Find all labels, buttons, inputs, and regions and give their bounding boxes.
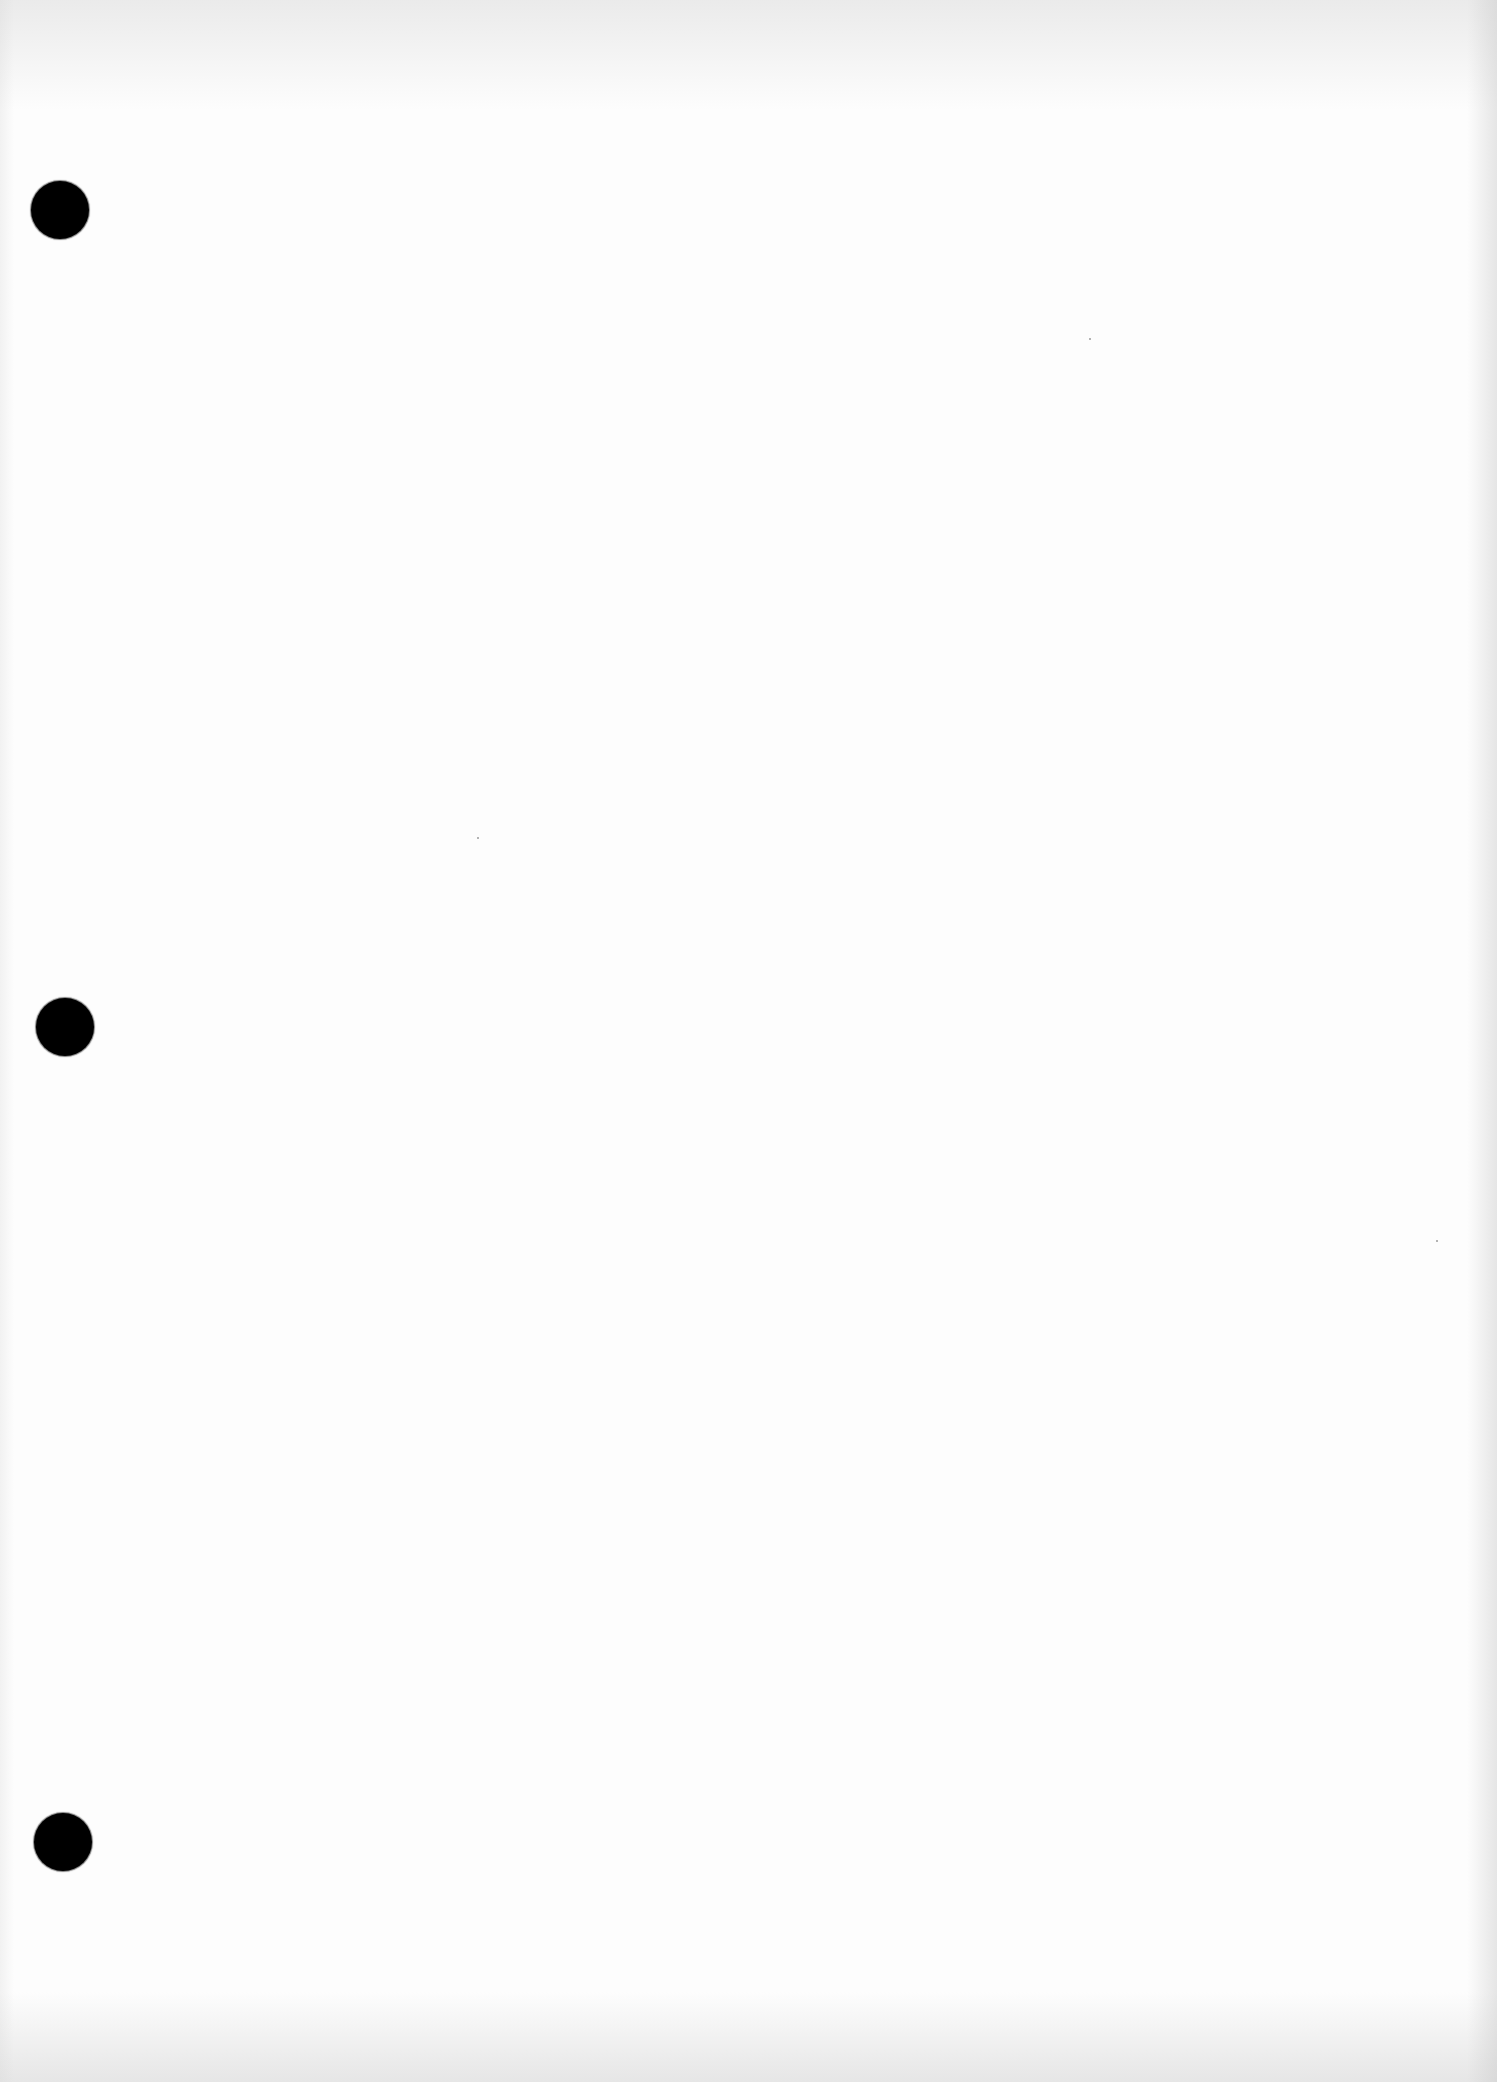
scanned-page <box>0 0 1497 2082</box>
scan-speck <box>1089 338 1091 340</box>
punch-hole-icon <box>31 181 89 239</box>
scan-shadow-right <box>1467 0 1497 2082</box>
scan-speck <box>1436 1240 1438 1242</box>
punch-hole-icon <box>36 998 94 1056</box>
scan-shadow-left <box>0 0 14 2082</box>
scan-speck <box>477 837 479 839</box>
scan-shadow-top <box>0 0 1497 110</box>
scan-shadow-bottom <box>0 1992 1497 2082</box>
punch-hole-icon <box>34 1813 92 1871</box>
